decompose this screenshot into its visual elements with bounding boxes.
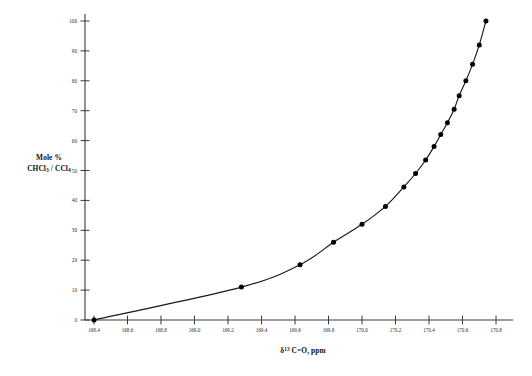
data-point bbox=[298, 262, 303, 267]
x-axis-tick-label: 168.8 bbox=[155, 327, 167, 333]
y-axis-title-separator: / CCl bbox=[49, 164, 68, 173]
axis-ticks-group bbox=[81, 21, 497, 325]
y-axis-tick-label: 80 bbox=[72, 78, 78, 84]
axes-group bbox=[85, 14, 513, 320]
y-axis-title: Mole % CHCl3 / CCl4 bbox=[18, 152, 80, 176]
x-axis-tick-label: 170.4 bbox=[423, 327, 435, 333]
data-point bbox=[457, 93, 462, 98]
x-axis-tick-label: 170.0 bbox=[356, 327, 368, 333]
y-axis-tick-label: 20 bbox=[72, 257, 78, 263]
data-point bbox=[438, 132, 443, 137]
data-point bbox=[383, 204, 388, 209]
data-point bbox=[445, 120, 450, 125]
y-axis-tick-label: 70 bbox=[72, 108, 78, 114]
y-axis-tick-label: 30 bbox=[72, 227, 78, 233]
data-point bbox=[477, 42, 482, 47]
data-curve-group bbox=[94, 21, 486, 320]
x-axis-tick-label: 170.8 bbox=[490, 327, 502, 333]
data-point bbox=[463, 78, 468, 83]
x-axis-tick-label: 169.8 bbox=[323, 327, 335, 333]
y-axis-tick-label: 90 bbox=[72, 48, 78, 54]
data-point bbox=[331, 240, 336, 245]
data-point bbox=[423, 158, 428, 163]
data-point bbox=[452, 107, 457, 112]
data-curve bbox=[94, 21, 486, 320]
data-point bbox=[470, 62, 475, 67]
data-point bbox=[413, 171, 418, 176]
x-axis-tick-label: 170.2 bbox=[390, 327, 402, 333]
data-point bbox=[239, 285, 244, 290]
figure-canvas: 0102030405060708090100168.4168.6168.8169… bbox=[0, 0, 532, 376]
y-axis-title-chcl3: CHCl bbox=[27, 164, 46, 173]
x-axis-tick-label: 170.6 bbox=[457, 327, 469, 333]
y-axis-title-sub-4: 4 bbox=[68, 167, 71, 173]
x-axis-title: δ13 C=O, ppm bbox=[233, 346, 373, 355]
data-point bbox=[432, 144, 437, 149]
y-axis-title-line2: CHCl3 / CCl4 bbox=[27, 164, 71, 173]
x-axis-tick-label: 169.0 bbox=[189, 327, 201, 333]
data-point bbox=[92, 318, 97, 323]
chart-plot: 0102030405060708090100168.4168.6168.8169… bbox=[0, 0, 532, 376]
x-axis-tick-label: 169.4 bbox=[256, 327, 268, 333]
axis-tick-labels-group: 0102030405060708090100168.4168.6168.8169… bbox=[69, 18, 502, 333]
y-axis-tick-label: 100 bbox=[69, 18, 77, 24]
x-axis-tick-label: 168.4 bbox=[88, 327, 100, 333]
x-axis-title-rest: C=O, ppm bbox=[290, 346, 326, 355]
x-axis-tick-label: 168.6 bbox=[122, 327, 134, 333]
x-axis-tick-label: 169.2 bbox=[222, 327, 234, 333]
y-axis-tick-label: 40 bbox=[72, 197, 78, 203]
y-axis-tick-label: 0 bbox=[74, 317, 77, 323]
y-axis-title-line1: Mole % bbox=[36, 153, 62, 162]
data-point bbox=[483, 19, 488, 24]
y-axis-tick-label: 10 bbox=[72, 287, 78, 293]
data-points-group bbox=[92, 19, 489, 323]
x-axis-tick-label: 169.6 bbox=[289, 327, 301, 333]
data-point bbox=[360, 222, 365, 227]
data-point bbox=[401, 184, 406, 189]
y-axis-tick-label: 60 bbox=[72, 138, 78, 144]
